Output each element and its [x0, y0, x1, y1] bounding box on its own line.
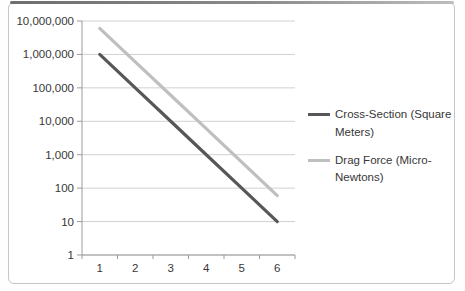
x-axis-tick-label: 3 [168, 262, 174, 274]
y-axis-tick-label: 10,000,000 [16, 15, 74, 27]
y-axis-tick-label: 100,000 [32, 82, 74, 94]
legend-swatch-cross-section [308, 113, 330, 116]
x-axis-tick-label: 6 [274, 262, 280, 274]
y-axis-tick-label: 10,000 [39, 115, 74, 127]
legend-item-drag-force: Drag Force (Micro-Newtons) [308, 152, 460, 188]
y-axis-tick-label: 1,000 [45, 149, 74, 161]
legend-swatch-drag-force [308, 159, 330, 162]
y-axis-tick-label: 1 [68, 249, 74, 261]
legend-item-cross-section: Cross-Section (Square Meters) [308, 106, 460, 142]
legend-label-cross-section: Cross-Section (Square Meters) [335, 106, 457, 142]
x-axis-tick-label: 5 [239, 262, 245, 274]
series-line-cross-section-square-meters [100, 54, 278, 221]
y-axis-tick-label: 10 [61, 216, 74, 228]
series-line-drag-force-micro-newtons [100, 28, 278, 195]
chart-image: 10,000,0001,000,000100,00010,0001,000100… [0, 0, 465, 291]
legend-label-drag-force: Drag Force (Micro-Newtons) [335, 152, 457, 188]
x-axis-tick-label: 4 [203, 262, 210, 274]
y-axis-tick-label: 1,000,000 [23, 48, 74, 60]
y-axis-tick-label: 100 [55, 182, 74, 194]
x-axis-tick-label: 2 [132, 262, 138, 274]
chart-legend: Cross-Section (Square Meters) Drag Force… [308, 106, 460, 197]
x-axis-tick-label: 1 [97, 262, 103, 274]
